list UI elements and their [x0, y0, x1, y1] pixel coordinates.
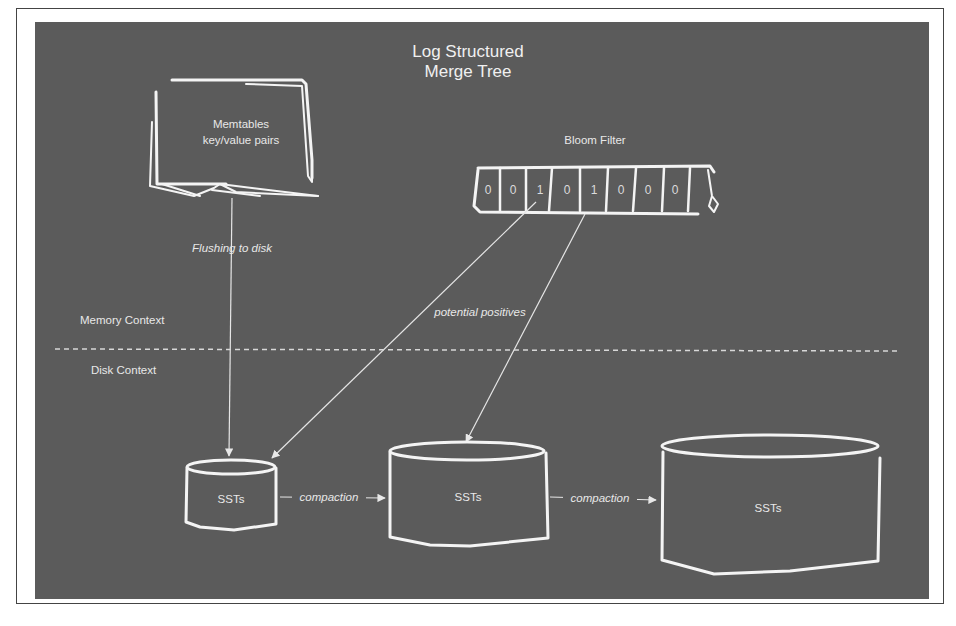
sst-cylinder-level-1: SSTs	[186, 460, 276, 530]
bloom-filter: Bloom Filter 0 0 1 0 1 0 0 0	[474, 134, 718, 214]
bloom-bit: 0	[618, 183, 625, 197]
compaction-label: compaction	[571, 492, 630, 504]
bloom-bit: 0	[672, 183, 679, 197]
context-divider: Memory Context Disk Context	[55, 314, 900, 376]
compaction-label: compaction	[300, 491, 359, 503]
memtable-box: Memtables key/value pairs	[150, 80, 318, 196]
svg-text:Merge Tree: Merge Tree	[425, 62, 512, 81]
bloom-bit: 0	[510, 183, 517, 197]
bloom-bit: 0	[645, 183, 652, 197]
bloom-bit: 0	[564, 183, 571, 197]
memory-context-label: Memory Context	[80, 314, 165, 326]
disk-context-label: Disk Context	[91, 364, 157, 376]
sst-cylinder-level-2: SSTs	[390, 442, 548, 546]
bloom-bit: 1	[591, 183, 598, 197]
sst-label: SSTs	[455, 491, 482, 503]
bloom-bit: 1	[537, 183, 544, 197]
compaction-arrow-2: compaction	[550, 490, 656, 504]
sst-label: SSTs	[218, 493, 245, 505]
svg-text:Log Structured: Log Structured	[412, 42, 524, 61]
memtable-label-line1: Memtables	[213, 118, 269, 130]
memtable-label-line2: key/value pairs	[203, 134, 280, 146]
compaction-arrow-1: compaction	[280, 489, 385, 503]
lsm-tree-diagram: Log Structured Merge Tree Memtables key/…	[0, 0, 956, 626]
diagram-title: Log Structured Merge Tree	[412, 42, 524, 81]
sst-cylinder-level-3: SSTs	[662, 435, 880, 574]
flush-arrow: Flushing to disk	[192, 198, 273, 456]
potential-positives-arrows: potential positives	[272, 202, 585, 458]
potential-positives-label: potential positives	[433, 306, 526, 318]
flush-label: Flushing to disk	[192, 242, 273, 254]
bloom-filter-label: Bloom Filter	[564, 134, 626, 146]
bloom-bit: 0	[485, 183, 492, 197]
sst-label: SSTs	[755, 502, 782, 514]
